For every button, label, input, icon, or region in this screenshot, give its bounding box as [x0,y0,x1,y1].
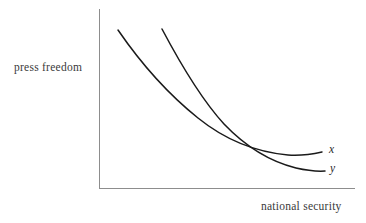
x-axis-label: national security [261,200,342,212]
plot-area [0,0,366,223]
chart-figure: press freedom national security x y [0,0,366,223]
curve-x [118,30,322,155]
curve-label-y: y [330,162,335,174]
curve-y [162,29,325,171]
curve-label-x: x [329,143,334,155]
y-axis-label: press freedom [14,61,82,73]
